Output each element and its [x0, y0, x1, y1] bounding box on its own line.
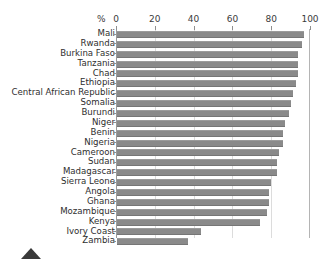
- bar: [117, 41, 302, 48]
- y-tick-mark: [113, 152, 116, 153]
- y-tick-mark: [113, 113, 116, 114]
- triangle-up-marker: [21, 248, 41, 259]
- y-tick-mark: [113, 172, 116, 173]
- bar-row: Tanzania: [0, 59, 329, 69]
- bar-row: Nigeria: [0, 138, 329, 148]
- bar-row: Benin: [0, 128, 329, 138]
- bar-row: Cameroon: [0, 148, 329, 158]
- y-tick-mark: [113, 201, 116, 202]
- y-tick-mark: [113, 93, 116, 94]
- bar: [117, 120, 285, 127]
- bar-row: Burkina Faso: [0, 49, 329, 59]
- bar: [117, 140, 283, 147]
- bar: [117, 80, 296, 87]
- bar-row: Mali: [0, 30, 329, 40]
- bar-category-label: Zambia: [82, 236, 115, 246]
- bar-row: Central African Republic: [0, 89, 329, 99]
- bar-row: Mozambique: [0, 207, 329, 217]
- y-tick-mark: [113, 63, 116, 64]
- y-tick-mark: [113, 211, 116, 212]
- bar: [117, 209, 267, 216]
- bar: [117, 179, 271, 186]
- bar: [117, 238, 188, 245]
- bar-row: Madagascar: [0, 168, 329, 178]
- bar-row: Sudan: [0, 158, 329, 168]
- bar: [117, 159, 277, 166]
- y-tick-mark: [113, 132, 116, 133]
- bar: [117, 51, 298, 58]
- bar: [117, 219, 260, 226]
- bar: [117, 199, 269, 206]
- bar: [117, 90, 293, 97]
- bar-chart: % 020406080100 MaliRwandaBurkina FasoTan…: [0, 0, 329, 265]
- y-tick-mark: [113, 43, 116, 44]
- bar: [117, 228, 201, 235]
- bar-row: Rwanda: [0, 39, 329, 49]
- y-tick-mark: [113, 73, 116, 74]
- bar-row: Sierra Leone: [0, 178, 329, 188]
- bar-row: Angola: [0, 188, 329, 198]
- y-tick-mark: [113, 162, 116, 163]
- y-tick-mark: [113, 142, 116, 143]
- bar-row: Ghana: [0, 197, 329, 207]
- bar-rows: MaliRwandaBurkina FasoTanzaniaChadEthiop…: [0, 0, 329, 265]
- y-tick-mark: [113, 103, 116, 104]
- bar-row: Zambia: [0, 237, 329, 247]
- bar: [117, 149, 279, 156]
- y-tick-mark: [113, 231, 116, 232]
- bar-row: Ivory Coast: [0, 227, 329, 237]
- y-tick-mark: [113, 221, 116, 222]
- bar-row: Burundi: [0, 109, 329, 119]
- bar: [117, 189, 269, 196]
- bar: [117, 31, 304, 38]
- bar-row: Chad: [0, 69, 329, 79]
- bar-row: Niger: [0, 118, 329, 128]
- y-tick-mark: [113, 241, 116, 242]
- bar: [117, 130, 283, 137]
- bar: [117, 61, 298, 68]
- bar: [117, 70, 298, 77]
- bar-row: Somalia: [0, 99, 329, 109]
- y-tick-mark: [113, 53, 116, 54]
- y-tick-mark: [113, 83, 116, 84]
- y-tick-mark: [113, 122, 116, 123]
- bar: [117, 169, 277, 176]
- bar: [117, 110, 289, 117]
- bar-row: Kenya: [0, 217, 329, 227]
- bar: [117, 100, 291, 107]
- y-tick-mark: [113, 192, 116, 193]
- y-tick-mark: [113, 182, 116, 183]
- y-tick-mark: [113, 34, 116, 35]
